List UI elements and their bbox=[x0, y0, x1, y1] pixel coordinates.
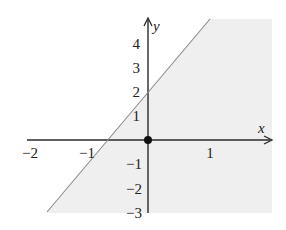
y-tick-label: 4 bbox=[133, 36, 141, 52]
y-tick-label: 1 bbox=[133, 108, 141, 124]
y-tick-label: −2 bbox=[126, 181, 142, 197]
x-axis-label: x bbox=[257, 120, 265, 136]
x-tick-label: −2 bbox=[22, 145, 38, 161]
y-tick-label: −3 bbox=[126, 205, 142, 221]
y-axis-label: y bbox=[151, 18, 160, 34]
y-tick-label: −1 bbox=[126, 156, 142, 172]
y-tick-label: 2 bbox=[133, 84, 141, 100]
shaded-region bbox=[47, 19, 272, 213]
origin-point bbox=[144, 136, 152, 144]
x-tick-label: −1 bbox=[79, 145, 95, 161]
y-tick-label: 3 bbox=[133, 60, 141, 76]
x-tick-label: 1 bbox=[206, 145, 214, 161]
inequality-graph: y x −2 −1 1 4 3 2 1 −1 −2 −3 bbox=[0, 0, 286, 230]
